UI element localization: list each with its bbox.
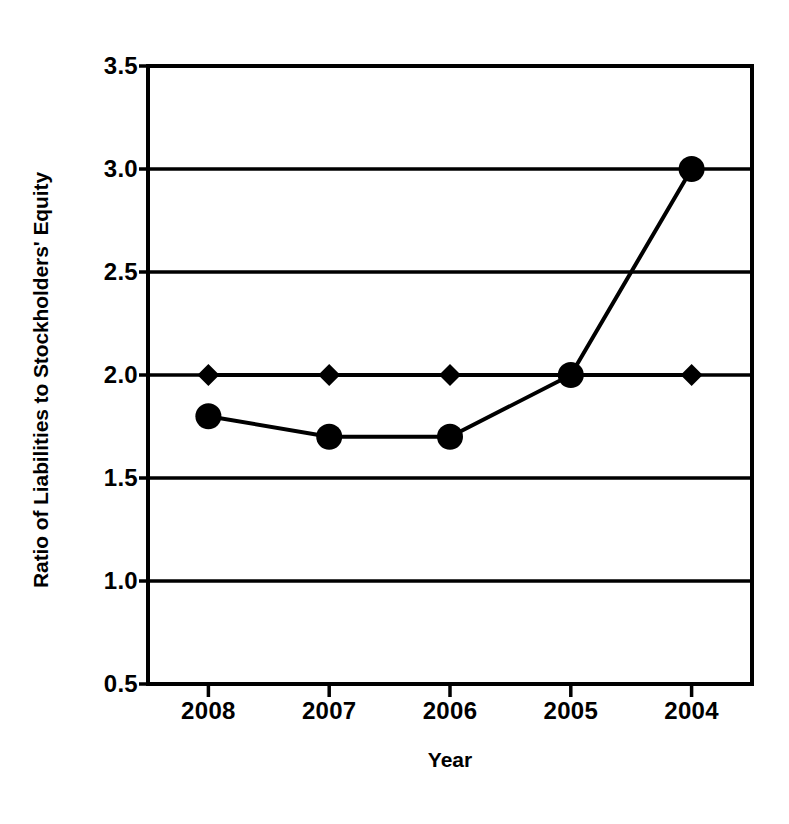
series-line <box>208 169 691 437</box>
data-series-group <box>195 156 704 450</box>
data-series <box>195 156 704 450</box>
data-series <box>197 364 702 386</box>
data-point-circle <box>558 362 584 388</box>
data-point-diamond <box>318 364 340 386</box>
plot-area <box>0 0 789 824</box>
data-point-circle <box>437 424 463 450</box>
chart-figure: Ratio of Liabilities to Stockholders' Eq… <box>0 0 789 824</box>
data-point-circle <box>679 156 705 182</box>
data-point-circle <box>316 424 342 450</box>
data-point-circle <box>195 403 221 429</box>
data-point-diamond <box>439 364 461 386</box>
data-point-diamond <box>197 364 219 386</box>
data-point-diamond <box>681 364 703 386</box>
